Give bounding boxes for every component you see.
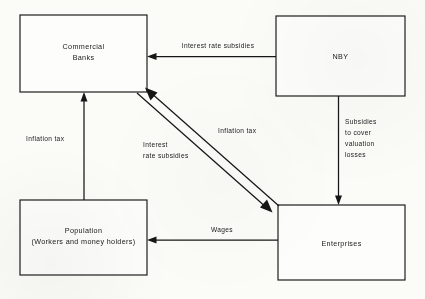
population-to-banks-label: Inflation tax: [26, 135, 65, 142]
nby-to-enterprises-label-line4: losses: [345, 151, 366, 158]
nby-to-enterprises-label-line2: to cover: [345, 129, 372, 136]
node-enterprises: Enterprises: [278, 205, 405, 280]
enterprises-to-population-arrowhead: [147, 237, 157, 244]
nby-label-line1: NBY: [333, 52, 349, 61]
enterprises-to-banks-diagonal-label: Inflation tax: [218, 127, 257, 134]
nby-to-enterprises-label-line1: Subsidies: [345, 118, 377, 125]
enterprises-label-line1: Enterprises: [321, 239, 361, 248]
enterprises-to-banks-diagonal-arrowhead: [145, 88, 158, 101]
population-to-banks-arrowhead: [81, 92, 88, 102]
nby-to-banks-arrowhead: [147, 53, 157, 60]
banks-to-enterprises-diagonal-label-line2: rate subsidies: [143, 152, 189, 159]
nby-to-enterprises-arrowhead: [335, 196, 342, 206]
nby-to-enterprises-label-line3: valuation: [345, 140, 375, 147]
population-label-line2: (Workers and money holders): [32, 237, 136, 246]
edge-nby-to-enterprises: Subsidies to cover valuation losses: [335, 96, 377, 205]
nby-to-banks-label: Interest rate subsidies: [182, 42, 255, 49]
commercial-banks-label-line2: Banks: [73, 53, 95, 62]
economic-flow-diagram: Commercial Banks NBY Population (Workers…: [0, 0, 425, 299]
banks-to-enterprises-diagonal-arrowhead: [260, 200, 273, 213]
edge-banks-to-enterprises-diagonal: Interest rate subsidies: [137, 93, 273, 213]
banks-to-enterprises-diagonal-label-line1: Interest: [143, 141, 168, 148]
enterprises-to-population-label: Wages: [211, 226, 233, 234]
diagram-canvas: Commercial Banks NBY Population (Workers…: [0, 0, 425, 299]
edge-enterprises-to-population: Wages: [147, 226, 278, 244]
commercial-banks-label-line1: Commercial: [63, 42, 105, 51]
edge-population-to-banks: Inflation tax: [26, 92, 88, 200]
node-commercial-banks: Commercial Banks: [20, 15, 147, 92]
node-population: Population (Workers and money holders): [20, 200, 147, 275]
population-label-line1: Population: [65, 226, 102, 235]
edge-nby-to-banks: Interest rate subsidies: [147, 42, 276, 60]
node-nby: NBY: [276, 16, 405, 96]
banks-to-enterprises-diagonal-line: [137, 93, 267, 208]
enterprises-to-banks-diagonal-line: [150, 92, 279, 206]
